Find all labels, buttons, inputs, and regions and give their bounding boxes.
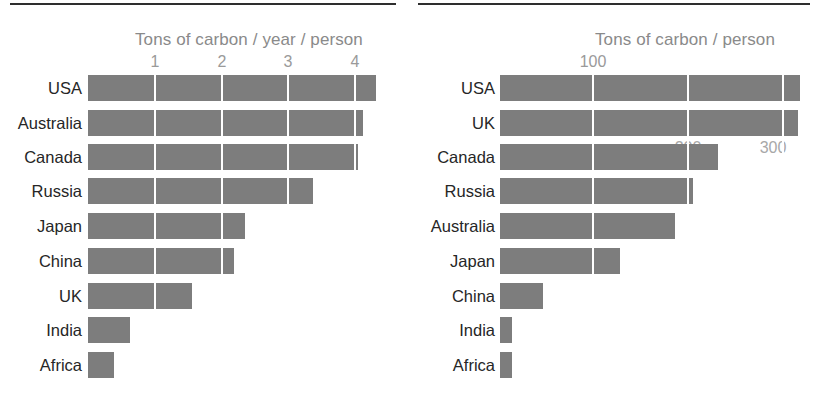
bar-china: [500, 283, 543, 309]
bar-label-china: China: [410, 287, 495, 306]
bar-label-uk: UK: [0, 287, 82, 306]
bar-label-africa: Africa: [0, 356, 82, 375]
bar-label-australia: Australia: [0, 114, 82, 133]
figure-root: Tons of carbon / year / person 1 2 3 4 U…: [0, 0, 819, 398]
gridline-4: [354, 75, 356, 389]
chart-title-right: Tons of carbon / person: [595, 30, 775, 50]
chart-left: Tons of carbon / year / person 1 2 3 4 U…: [0, 0, 410, 398]
gridline-200: [687, 75, 689, 389]
bar-label-japan: Japan: [0, 217, 82, 236]
chart-right: Tons of carbon / person 100 200 300 USA …: [410, 0, 819, 398]
x-tick-label-4: 4: [351, 53, 360, 71]
bar-australia: [500, 213, 675, 239]
bar-india: [500, 317, 512, 343]
bar-japan: [500, 248, 620, 274]
bar-label-usa: USA: [410, 79, 495, 98]
bar-label-china: China: [0, 252, 82, 271]
gridline-100: [592, 75, 594, 389]
bar-africa: [500, 352, 512, 378]
bar-label-africa: Africa: [410, 356, 495, 375]
bar-label-usa: USA: [0, 79, 82, 98]
bar-label-japan: Japan: [410, 252, 495, 271]
gridline-2: [221, 75, 223, 389]
bar-label-australia: Australia: [410, 217, 495, 236]
x-tick-label-100: 100: [580, 53, 607, 71]
gridline-300: [782, 75, 784, 389]
bar-russia: [88, 178, 313, 204]
bar-label-russia: Russia: [410, 182, 495, 201]
gridline-1: [154, 75, 156, 389]
bar-usa: [88, 75, 376, 101]
bar-label-india: India: [0, 321, 82, 340]
bar-usa: [500, 75, 800, 101]
bar-label-canada: Canada: [410, 148, 495, 167]
bar-canada: [88, 144, 358, 170]
x-tick-label-1: 1: [151, 53, 160, 71]
bar-label-india: India: [410, 321, 495, 340]
bar-label-canada: Canada: [0, 148, 82, 167]
bar-india: [88, 317, 130, 343]
chart-title-left: Tons of carbon / year / person: [135, 30, 363, 50]
bar-russia: [500, 178, 693, 204]
bar-canada: [500, 144, 718, 170]
bar-label-uk: UK: [410, 114, 495, 133]
bar-china: [88, 248, 234, 274]
bar-australia: [88, 110, 363, 136]
bar-uk: [88, 283, 192, 309]
bar-uk: [500, 110, 798, 136]
x-tick-label-3: 3: [284, 53, 293, 71]
gridline-3: [287, 75, 289, 389]
bar-africa: [88, 352, 114, 378]
bar-label-russia: Russia: [0, 182, 82, 201]
x-tick-label-2: 2: [218, 53, 227, 71]
